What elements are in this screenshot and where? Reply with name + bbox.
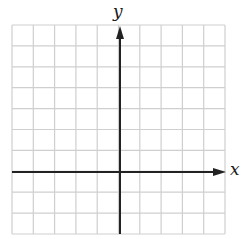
x-axis-label: x — [230, 161, 240, 178]
x-axis-arrow-icon — [213, 168, 226, 176]
y-axis-label: y — [113, 3, 123, 20]
y-axis-arrow-icon — [116, 26, 124, 39]
grid-lines — [12, 25, 225, 234]
coordinate-plane — [0, 0, 245, 239]
